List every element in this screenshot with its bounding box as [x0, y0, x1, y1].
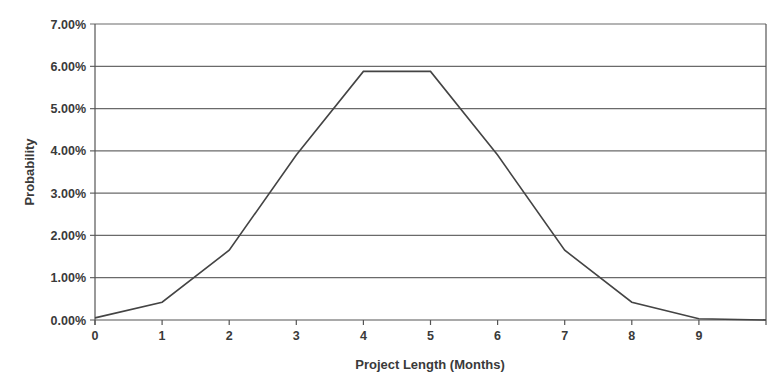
x-tick-label: 4	[360, 329, 367, 343]
x-tick-label: 7	[561, 329, 568, 343]
x-tick-label: 6	[494, 329, 501, 343]
axes	[95, 24, 766, 325]
x-tick-label: 9	[695, 329, 702, 343]
y-axis-tick-labels: 0.00%1.00%2.00%3.00%4.00%5.00%6.00%7.00%	[51, 18, 86, 328]
x-axis-tick-labels: 0123456789	[92, 329, 703, 343]
gridlines	[90, 24, 766, 320]
y-tick-label: 3.00%	[51, 187, 86, 201]
x-tick-label: 1	[159, 329, 166, 343]
x-tick-label: 5	[427, 329, 434, 343]
x-tick-label: 8	[628, 329, 635, 343]
y-axis-title: Probability	[22, 138, 37, 206]
x-axis-title: Project Length (Months)	[355, 357, 505, 372]
x-tick-label: 0	[92, 329, 99, 343]
y-tick-label: 0.00%	[51, 314, 86, 328]
y-tick-label: 6.00%	[51, 60, 86, 74]
y-tick-label: 1.00%	[51, 271, 86, 285]
y-tick-label: 4.00%	[51, 144, 86, 158]
y-tick-label: 2.00%	[51, 229, 86, 243]
x-tick-label: 3	[293, 329, 300, 343]
x-tick-label: 2	[226, 329, 233, 343]
y-tick-label: 5.00%	[51, 102, 86, 116]
y-tick-label: 7.00%	[51, 18, 86, 32]
probability-line-chart: 0.00%1.00%2.00%3.00%4.00%5.00%6.00%7.00%…	[0, 0, 776, 383]
